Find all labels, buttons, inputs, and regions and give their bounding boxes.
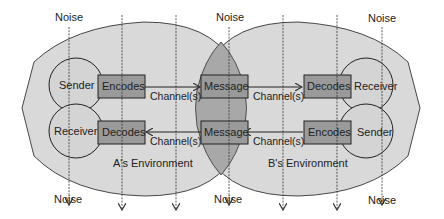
b-encodes-label: Encodes [308, 126, 351, 138]
channel-label-4: Channel(s) [253, 135, 304, 147]
channel-label-2: Channel(s) [253, 90, 304, 102]
noise-label-bottom-2: Noise [214, 193, 242, 205]
message-bottom-label: Message [204, 126, 249, 138]
message-top-label: Message [204, 80, 249, 92]
a-sender-label: Sender [59, 79, 95, 91]
channel-label-1: Channel(s) [150, 90, 201, 102]
noise-label-top-2: Noise [216, 11, 244, 23]
a-receiver-label: Receiver [54, 125, 98, 137]
channel-label-3: Channel(s) [150, 135, 201, 147]
noise-label-top-1: Noise [55, 11, 83, 23]
a-environment-label: A's Environment [113, 157, 193, 169]
b-sender-label: Sender [357, 126, 393, 138]
communication-model-diagram: Noise Noise Noise Noise Noise Noise Send… [0, 0, 444, 219]
b-receiver-label: Receiver [354, 80, 398, 92]
noise-label-top-3: Noise [368, 12, 396, 24]
a-decodes-label: Decodes [102, 126, 146, 138]
b-decodes-label: Decodes [307, 80, 351, 92]
b-environment-label: B's Environment [268, 157, 348, 169]
noise-label-bottom-3: Noise [368, 194, 396, 206]
a-encodes-label: Encodes [102, 80, 145, 92]
noise-label-bottom-1: Noise [54, 193, 82, 205]
